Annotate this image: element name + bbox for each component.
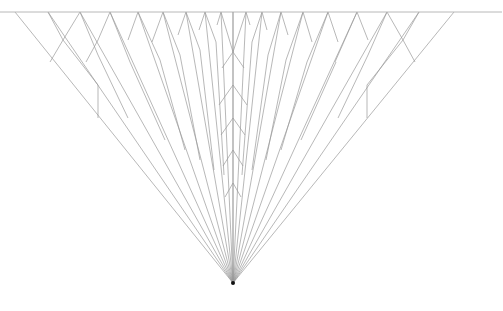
ray-line — [233, 12, 454, 283]
reflected-segment — [110, 12, 130, 62]
reflected-segment — [335, 12, 357, 62]
reflected-segment — [281, 62, 307, 150]
apex-point — [231, 281, 235, 285]
reflected-segment — [262, 12, 267, 30]
reflected-segment — [233, 52, 244, 68]
reflected-segment — [233, 85, 247, 105]
reflected-segment — [180, 55, 200, 160]
reflected-segment — [221, 118, 233, 135]
reflected-segment — [98, 12, 110, 40]
reflected-segment — [200, 50, 214, 170]
reflected-segment — [252, 55, 268, 170]
reflected-segment — [217, 12, 221, 25]
reflected-segment — [80, 12, 98, 55]
reflected-segment — [178, 12, 186, 35]
reflected-segment — [222, 52, 233, 68]
reflected-segment — [163, 12, 180, 55]
reflected-segment — [98, 55, 128, 118]
reflected-segment — [281, 12, 288, 35]
reflected-segment — [199, 12, 205, 30]
reflected-segment — [186, 12, 200, 50]
diagram-svg — [0, 0, 503, 311]
reflected-segment — [367, 40, 403, 85]
reflected-segment — [328, 12, 338, 42]
reflected-segment — [233, 118, 245, 135]
ray-line — [233, 12, 303, 283]
reflected-segment — [303, 12, 312, 42]
reflected-segment — [357, 12, 368, 40]
reflected-rays — [48, 12, 419, 197]
reflected-segment — [286, 12, 303, 60]
reflected-segment — [219, 85, 233, 105]
reflected-segment — [63, 12, 80, 40]
ray-line — [110, 12, 233, 283]
ray-line — [233, 12, 387, 283]
reflected-segment — [48, 12, 63, 40]
reflected-segment — [246, 12, 250, 25]
ray-line — [233, 12, 357, 283]
reflected-segment — [138, 12, 160, 60]
ray-reflection-diagram — [0, 0, 503, 311]
reflected-segment — [387, 12, 403, 40]
reflected-segment — [50, 40, 63, 62]
reflected-segment — [128, 12, 138, 40]
ray-line — [233, 12, 281, 283]
ray-line — [233, 12, 419, 283]
reflected-segment — [403, 40, 415, 62]
reflected-segment — [233, 150, 243, 166]
ray-fan — [15, 12, 454, 283]
reflected-segment — [368, 12, 387, 55]
reflected-segment — [266, 60, 286, 160]
reflected-segment — [403, 12, 419, 40]
ray-line — [48, 12, 233, 283]
reflected-segment — [152, 12, 163, 42]
